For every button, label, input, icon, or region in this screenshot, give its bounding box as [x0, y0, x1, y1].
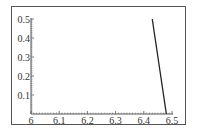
x-tick-label: 6.5 [166, 115, 179, 126]
y-tick-label: 0.4 [18, 33, 31, 44]
y-tick-label: 0.5 [18, 14, 31, 25]
x-axis-ticks: 66.16.26.36.46.5 [29, 111, 179, 126]
x-tick-label: 6 [29, 115, 34, 126]
data-series [152, 19, 166, 114]
line-chart: 66.16.26.36.46.5 0.10.20.30.40.5 [0, 0, 203, 134]
x-tick-label: 6.3 [109, 115, 122, 126]
axes [31, 18, 173, 114]
x-tick-label: 6.2 [81, 115, 94, 126]
y-tick-label: 0.2 [18, 71, 31, 82]
series-line [152, 19, 166, 114]
y-tick-label: 0.1 [18, 90, 31, 101]
x-tick-label: 6.1 [53, 115, 66, 126]
y-tick-label: 0.3 [18, 52, 31, 63]
x-tick-label: 6.4 [138, 115, 151, 126]
y-axis-ticks: 0.10.20.30.40.5 [18, 14, 35, 113]
